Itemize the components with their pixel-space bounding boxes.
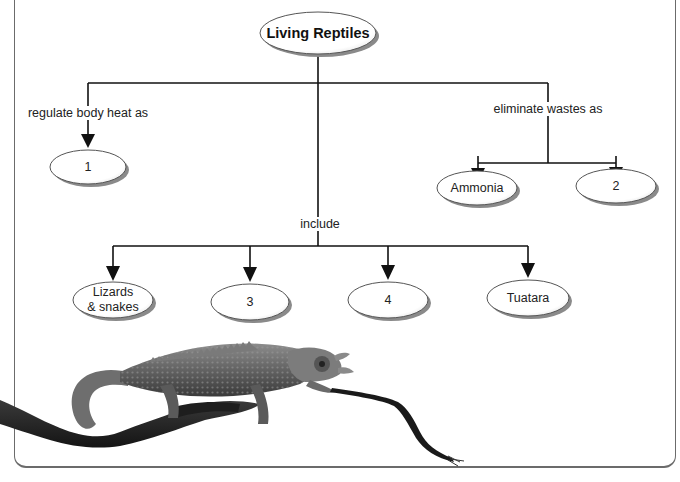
connector-lines: [88, 56, 616, 268]
arrow-icon: [381, 265, 395, 280]
node-tuatara: Tuatara: [487, 281, 569, 315]
concept-ovals: [50, 12, 659, 323]
link-label-regulate-body-heat: regulate body heat as: [26, 106, 150, 120]
node-2: 2: [576, 169, 656, 203]
chameleon-illustration: [0, 341, 464, 466]
concept-map-lines: [0, 0, 680, 482]
node-1: 1: [50, 150, 126, 184]
root-node-living-reptiles: Living Reptiles: [260, 12, 376, 54]
arrow-icon: [521, 263, 535, 278]
node-ammonia: Ammonia: [437, 171, 517, 205]
node-4: 4: [348, 283, 428, 317]
arrowheads: [81, 134, 623, 282]
node-lizards-snakes: Lizards & snakes: [73, 282, 153, 318]
arrow-icon: [243, 267, 257, 282]
link-label-eliminate-wastes: eliminate wastes as: [491, 102, 604, 116]
node-3: 3: [211, 285, 289, 319]
arrow-icon: [81, 134, 95, 148]
arrow-icon: [106, 266, 120, 281]
link-label-include: include: [298, 217, 342, 231]
